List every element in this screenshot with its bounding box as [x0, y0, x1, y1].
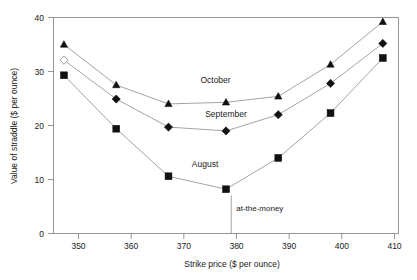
series-inline-labels: OctoberSeptemberAugust	[192, 75, 247, 168]
y-tick-label-0: 0	[39, 229, 44, 239]
series-group-october	[60, 18, 386, 107]
data-point-marker	[379, 55, 386, 62]
data-point-marker	[60, 41, 67, 47]
data-point-marker	[379, 18, 386, 24]
data-point-marker	[113, 81, 120, 87]
x-tick-label-350: 350	[71, 241, 85, 251]
y-tick-label-10: 10	[35, 175, 45, 185]
series-group-september	[60, 39, 387, 135]
data-point-marker	[165, 173, 172, 180]
series-label-october: October	[200, 75, 230, 85]
y-tick-label-20: 20	[35, 121, 45, 131]
x-tick-label-360: 360	[124, 241, 138, 251]
data-point-marker	[223, 186, 230, 193]
x-axis-ticks: 350 360 370 380 390 400 410	[71, 234, 401, 252]
annotation-at-the-money: at-the-money	[231, 195, 283, 233]
y-tick-label-40: 40	[35, 13, 45, 23]
x-tick-label-410: 410	[387, 241, 401, 251]
x-tick-label-380: 380	[229, 241, 243, 251]
at-the-money-label: at-the-money	[236, 204, 283, 213]
data-point-marker	[327, 61, 334, 67]
x-tick-label-390: 390	[282, 241, 296, 251]
data-point-marker	[60, 56, 68, 64]
x-axis-title: Strike price ($ per ounce)	[184, 259, 280, 269]
data-point-marker	[222, 127, 230, 135]
data-point-marker	[327, 110, 334, 117]
series-label-september: September	[205, 109, 247, 119]
series-line-october	[64, 22, 383, 104]
data-point-marker	[326, 79, 334, 87]
x-tick-label-370: 370	[177, 241, 191, 251]
plot-frame	[54, 18, 399, 234]
data-point-marker	[275, 93, 282, 99]
data-point-marker	[164, 123, 172, 131]
straddle-value-line-chart: 0 10 20 30 40 350 360 370 380 390 400 41…	[0, 0, 417, 280]
data-point-marker	[113, 125, 120, 132]
y-axis-title: Value of straddle ($ per ounce)	[9, 68, 19, 184]
data-point-marker	[61, 72, 68, 79]
x-tick-label-400: 400	[335, 241, 349, 251]
data-point-marker	[274, 111, 282, 119]
data-point-marker	[275, 155, 282, 162]
y-axis-ticks: 0 10 20 30 40	[35, 13, 54, 239]
y-tick-label-30: 30	[35, 67, 45, 77]
data-point-marker	[379, 39, 387, 47]
chart-figure: 0 10 20 30 40 350 360 370 380 390 400 41…	[0, 0, 417, 280]
series-label-august: August	[192, 159, 219, 169]
data-point-marker	[112, 95, 120, 103]
